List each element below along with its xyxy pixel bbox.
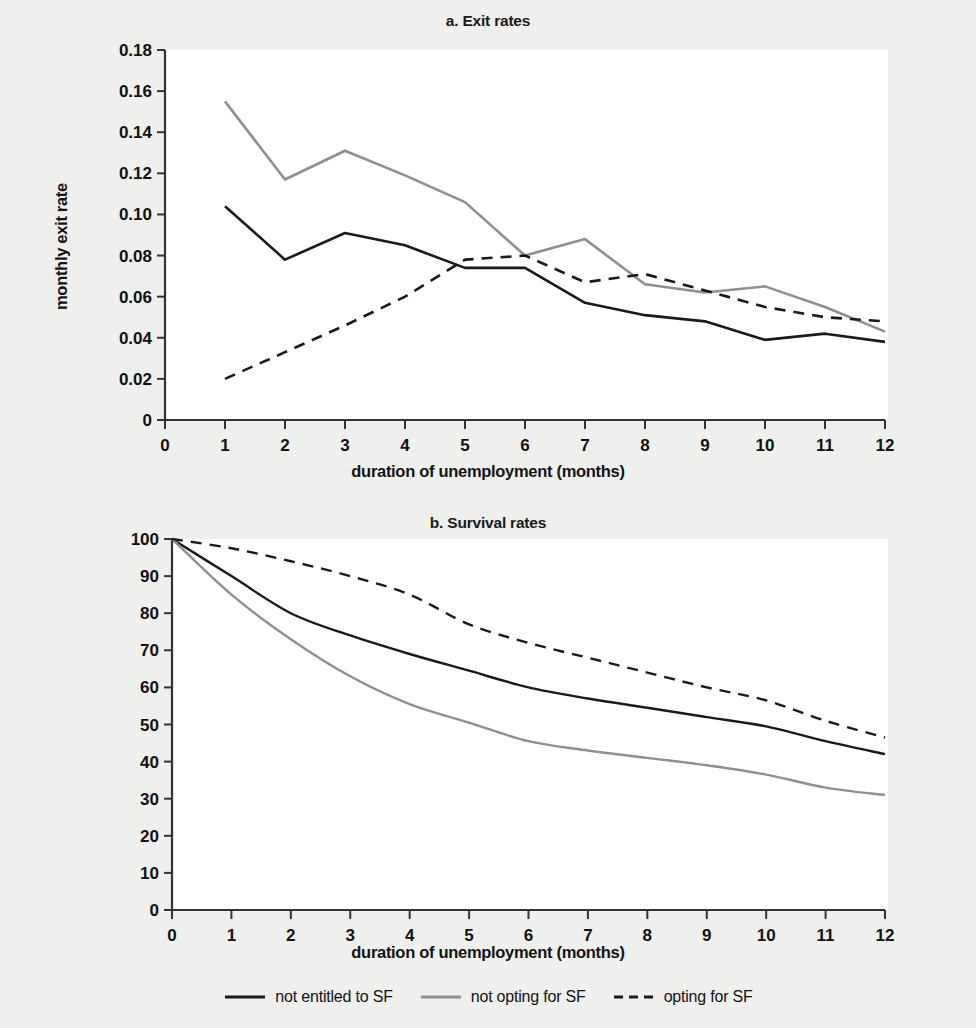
panel-a-yaxis-label: monthly exit rate — [52, 183, 71, 310]
y-tick-label: 0.12 — [119, 164, 152, 183]
legend-swatch-solid-icon — [419, 990, 463, 1004]
x-tick-label: 0 — [160, 436, 169, 455]
y-tick-label: 90 — [140, 567, 159, 586]
panel-a-xaxis-label: duration of unemployment (months) — [0, 462, 976, 481]
legend-label: opting for SF — [664, 988, 753, 1006]
y-tick-label: 80 — [140, 604, 159, 623]
x-tick-label: 11 — [816, 436, 834, 455]
legend-item: opting for SF — [612, 988, 753, 1006]
panel-b-xaxis-label: duration of unemployment (months) — [0, 943, 976, 962]
y-tick-label: 0.14 — [119, 123, 153, 142]
x-tick-label: 3 — [340, 436, 349, 455]
plot-background — [172, 539, 888, 910]
plot-background — [165, 50, 888, 420]
y-tick-label: 0 — [143, 411, 152, 430]
y-tick-label: 40 — [140, 753, 159, 772]
x-tick-label: 4 — [400, 436, 410, 455]
y-tick-label: 0.16 — [119, 82, 152, 101]
legend-swatch-solid-icon — [223, 990, 267, 1004]
x-tick-label: 8 — [640, 436, 649, 455]
x-tick-label: 2 — [280, 436, 289, 455]
y-tick-label: 50 — [140, 716, 159, 735]
y-tick-label: 0.18 — [119, 41, 152, 60]
exit-rates-plot: 00.020.040.060.080.100.120.140.160.18012… — [0, 0, 976, 500]
figure-canvas: a. Exit rates 00.020.040.060.080.100.120… — [0, 0, 976, 1028]
x-tick-label: 10 — [756, 436, 775, 455]
y-tick-label: 10 — [140, 864, 159, 883]
legend-label: not opting for SF — [471, 988, 586, 1006]
x-tick-label: 9 — [700, 436, 709, 455]
y-tick-label: 60 — [140, 678, 159, 697]
y-tick-label: 100 — [131, 530, 159, 549]
y-tick-label: 0.04 — [119, 329, 153, 348]
x-tick-label: 7 — [580, 436, 589, 455]
x-tick-label: 6 — [520, 436, 529, 455]
y-tick-label: 0.06 — [119, 288, 152, 307]
panel-a-yaxis-label-wrap: monthly exit rate — [52, 183, 71, 310]
legend-item: not entitled to SF — [223, 988, 392, 1006]
y-tick-label: 20 — [140, 827, 159, 846]
y-tick-label: 0.08 — [119, 247, 152, 266]
y-tick-label: 30 — [140, 790, 159, 809]
legend-swatch-dashed-icon — [612, 990, 656, 1004]
y-tick-label: 70 — [140, 641, 159, 660]
y-tick-label: 0 — [150, 901, 159, 920]
x-tick-label: 1 — [220, 436, 229, 455]
x-tick-label: 5 — [460, 436, 469, 455]
y-tick-label: 0.02 — [119, 370, 152, 389]
figure-legend: not entitled to SFnot opting for SFoptin… — [0, 988, 976, 1006]
legend-item: not opting for SF — [419, 988, 586, 1006]
panel-exit-rates: a. Exit rates 00.020.040.060.080.100.120… — [0, 0, 976, 500]
survival-rates-plot: 01020304050607080901000123456789101112 — [0, 500, 976, 970]
y-tick-label: 0.10 — [119, 205, 152, 224]
x-tick-label: 12 — [876, 436, 895, 455]
legend-label: not entitled to SF — [275, 988, 392, 1006]
panel-survival-rates: b. Survival rates 0102030405060708090100… — [0, 500, 976, 970]
